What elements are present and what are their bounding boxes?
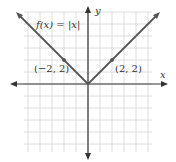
x-axis-label: x — [160, 69, 166, 80]
y-axis-up-arrow-icon — [85, 6, 91, 13]
point-2-2 — [110, 58, 114, 62]
function-label: f(x) = |x| — [35, 19, 80, 31]
x-axis-right-arrow-icon — [161, 81, 168, 87]
point-label-left: (−2, 2) — [34, 63, 69, 74]
y-axis-label: y — [94, 5, 101, 16]
y-axis-down-arrow-icon — [85, 153, 91, 160]
point-neg2-2 — [62, 58, 66, 62]
absolute-value-graph: (−2, 2) (2, 2) f(x) = |x| x y — [0, 0, 176, 162]
x-axis-left-arrow-icon — [10, 81, 17, 87]
point-label-right: (2, 2) — [115, 63, 142, 74]
